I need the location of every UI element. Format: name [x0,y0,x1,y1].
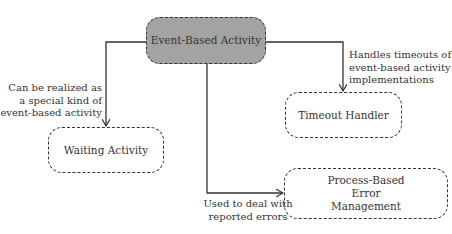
edge-label-waiting: Can be realized as a special kind of eve… [0,82,102,120]
node-label: Timeout Handler [298,109,389,122]
node-process-based-error-management: Process-Based Error Management [284,168,448,219]
node-label: Process-Based Error Management [315,174,417,213]
node-timeout-handler: Timeout Handler [285,92,402,138]
edge-to-process-based-error [207,64,283,193]
node-label: Event-Based Activity [151,34,261,47]
node-waiting-activity: Waiting Activity [48,127,164,173]
node-event-based-activity: Event-Based Activity [146,17,266,64]
edge-label-error: Used to deal with reported errors [200,198,296,223]
edge-to-timeout-handler [266,42,343,91]
edge-to-waiting-activity [106,42,146,126]
node-label: Waiting Activity [64,144,148,157]
edge-label-timeout: Handles timeouts of event-based activity… [349,49,452,87]
